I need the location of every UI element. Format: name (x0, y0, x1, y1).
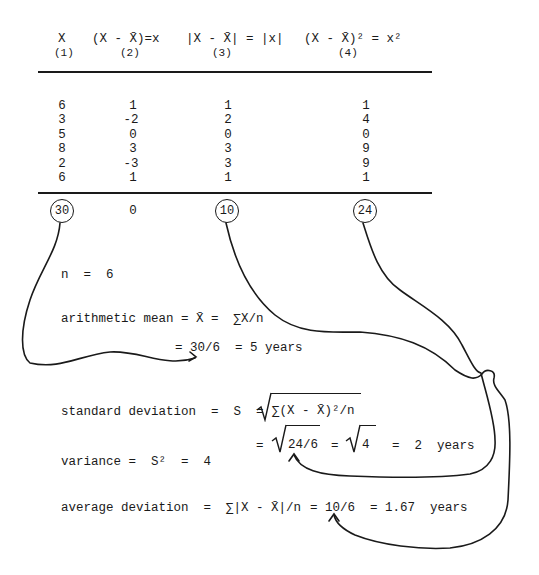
arrow-30-to-mean (23, 223, 196, 365)
arrowhead-icon (189, 352, 196, 361)
arrow-24-to-sd (294, 223, 495, 477)
hand-drawn-arrows (0, 0, 539, 575)
arrowhead-icon (289, 454, 299, 461)
arrow-10-to-avgdev (226, 223, 510, 548)
